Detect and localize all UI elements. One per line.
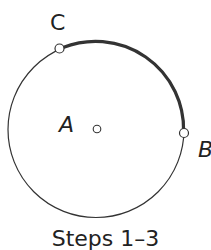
circle-construction-diagram <box>0 0 211 250</box>
label-a: A <box>59 114 74 136</box>
point-b-marker <box>180 129 189 138</box>
label-c: C <box>50 12 65 34</box>
point-c-marker <box>55 44 64 53</box>
caption: Steps 1–3 <box>0 228 211 250</box>
label-b: B <box>198 139 211 161</box>
arc-bc-highlight <box>63 41 184 131</box>
point-a-marker <box>93 125 101 133</box>
